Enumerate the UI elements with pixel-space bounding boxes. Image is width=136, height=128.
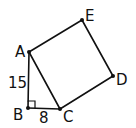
label-b: B [13,106,23,124]
length-label-bc: 8 [39,109,49,127]
segment-ab [28,52,29,108]
label-a: A [15,43,26,61]
label-e: E [85,7,94,25]
label-d: D [116,71,128,89]
segment-cd [60,76,113,109]
point-a [27,50,31,54]
label-c: C [63,108,73,126]
segment-ea [29,20,82,52]
point-d [111,74,115,78]
geometry-diagram: A B C D E 15 8 [0,0,136,128]
point-c [58,107,62,111]
segment-de [82,20,113,76]
point-e [80,18,84,22]
point-b [26,106,30,110]
length-label-ab: 15 [8,74,27,92]
